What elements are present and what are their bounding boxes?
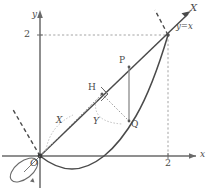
point-dot-h <box>101 93 104 96</box>
point-dot-q <box>128 120 131 123</box>
x-tick-label-2: 2 <box>165 158 171 168</box>
y-tick-label-2: 2 <box>24 29 30 39</box>
line-equation-label: y=x <box>176 22 193 31</box>
point-label-q: Q <box>131 120 138 129</box>
point-label-h: H <box>88 83 96 92</box>
segment-label-x: X <box>56 116 62 125</box>
dashed-axis-top <box>155 10 168 35</box>
segment-label-y: Y <box>93 117 99 126</box>
x-axis-arrow-icon <box>189 153 196 159</box>
origin-label: O <box>30 158 38 168</box>
point-dot-intersection <box>166 33 170 37</box>
rotation-arrow-icon <box>30 178 35 183</box>
parabola-curve <box>40 35 168 169</box>
y-axis-arrow-icon <box>37 10 43 18</box>
point-dot-p <box>128 66 131 69</box>
x-axis-label: x <box>200 150 205 159</box>
point-label-p: P <box>119 56 125 65</box>
y-label-arc <box>96 101 122 124</box>
rotated-x-axis-label: X <box>190 3 197 13</box>
segment-hq-y <box>102 94 129 121</box>
figure-canvas: y x O 2 2 X y=x P Q H X Y <box>0 0 216 192</box>
dashed-perpendicular-axis <box>12 108 40 156</box>
y-axis-label: y <box>32 10 37 19</box>
